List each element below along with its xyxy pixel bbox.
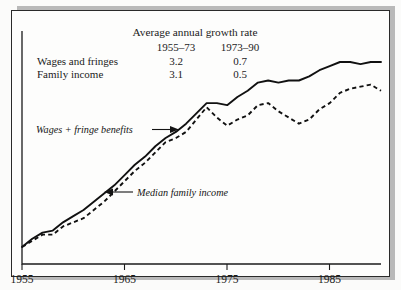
x-tick-label-1975: 1975 [216,273,239,285]
x-axis-ticks [22,264,330,270]
table-row-label-2: Family income [37,68,103,80]
x-tick-label-1985: 1985 [318,273,341,285]
annotation-label-wages: Wages + fringe benefits [36,124,133,135]
annotation-wages-fringe-benefits: Wages + fringe benefits [36,124,179,135]
chart-title: Average annual growth rate [133,26,258,38]
table-cell-2-1: 3.1 [169,68,183,80]
table-cell-2-2: 0.5 [233,68,247,80]
table-cell-1-1: 3.2 [169,55,183,67]
chart-svg: Average annual growth rate 1955–73 1973–… [0,0,401,290]
column-header-2: 1973–90 [221,41,260,53]
x-tick-label-1955: 1955 [11,273,34,285]
table-row-label-1: Wages and fringes [37,55,118,67]
annotation-label-median: Median family income [136,187,229,198]
table-cell-1-2: 0.7 [233,55,247,67]
annotation-median-family-income: Median family income [104,187,229,198]
series-wages-fringe-benefits [22,62,381,247]
x-tick-label-1965: 1965 [113,273,136,285]
figure-container: Average annual growth rate 1955–73 1973–… [0,0,401,290]
column-header-1: 1955–73 [157,41,196,53]
